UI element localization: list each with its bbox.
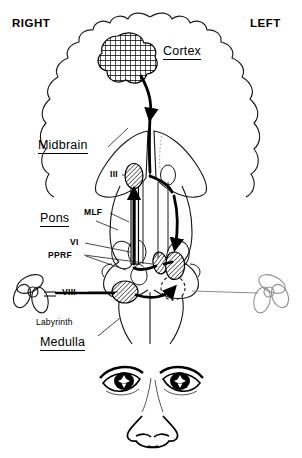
gaze-pathway-figure: RIGHT LEFT Cortex Midbrain Pons Medulla … <box>0 0 302 458</box>
nose <box>127 416 177 447</box>
region-label-midbrain: Midbrain <box>38 139 88 154</box>
region-label-medulla: Medulla <box>40 336 85 351</box>
orientation-label-left: LEFT <box>250 18 281 30</box>
structure-label-pprf: PPRF <box>48 251 72 260</box>
right-labyrinth <box>10 271 56 315</box>
face-drawing <box>100 367 203 447</box>
orientation-label-right: RIGHT <box>12 18 50 30</box>
structure-label-mlf: MLF <box>84 208 102 217</box>
leader-lines <box>84 128 152 336</box>
anatomy-drawing <box>0 0 302 458</box>
nucleus-iii-blob <box>125 164 143 189</box>
structure-label-nerve-viii: VIII <box>62 288 76 297</box>
midbrain-outline <box>95 127 206 197</box>
pprf-blob <box>166 252 185 279</box>
region-label-cortex: Cortex <box>163 45 201 60</box>
left-labyrinth <box>192 271 292 315</box>
left-eye <box>160 367 203 395</box>
region-label-pons: Pons <box>40 212 69 227</box>
faint-midline-tract <box>160 132 162 170</box>
structure-label-nucleus-vi: VI <box>70 238 79 247</box>
structure-label-labyrinth: Labyrinth <box>36 318 73 327</box>
right-eye <box>100 367 143 395</box>
cortical-lesion <box>98 33 157 83</box>
structure-label-nucleus-iii: III <box>110 170 118 179</box>
tract-rails <box>143 182 168 264</box>
